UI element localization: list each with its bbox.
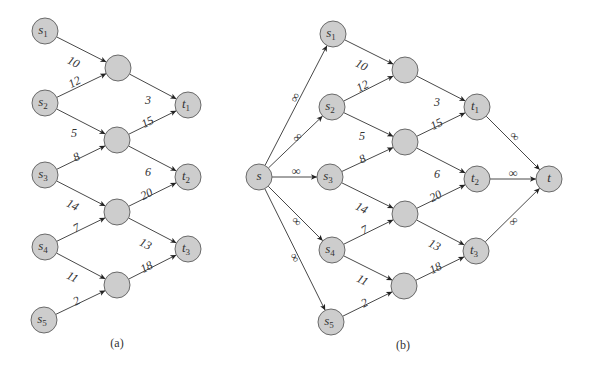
node-s5: s5 [31, 307, 57, 333]
edge-capacity-label: 12 [66, 73, 83, 91]
node-t3: t3 [463, 238, 489, 264]
node-subscript: 2 [330, 105, 335, 115]
edge-capacity-label: 11 [64, 268, 80, 286]
edge-s-s5 [265, 189, 325, 311]
node-subscript: 2 [475, 177, 480, 187]
node-circle [392, 201, 418, 227]
edge-s4-m3 [57, 218, 106, 242]
panel-b-caption: (b) [396, 338, 410, 352]
node-t1: t1 [175, 92, 201, 118]
node-m3 [392, 201, 418, 227]
node-circle [391, 273, 417, 299]
node-subscript: 3 [186, 247, 191, 257]
edge-s-s1 [265, 46, 327, 166]
edge-capacity-label: 7 [359, 222, 372, 238]
node-subscript: 3 [43, 173, 48, 183]
edge-capacity-label: ∞ [289, 129, 305, 145]
node-circle [104, 127, 130, 153]
node-t2: t2 [464, 166, 490, 192]
node-subscript: 3 [474, 249, 479, 259]
edge-capacity-label: 14 [353, 199, 370, 217]
edge-capacity-label: ∞ [289, 213, 305, 229]
edge-capacity-label: 3 [433, 95, 440, 109]
edge-capacity-label: 5 [71, 126, 77, 140]
node-t1: t1 [464, 94, 490, 120]
node-subscript: 2 [43, 101, 48, 111]
edge-capacity-label: 6 [145, 165, 151, 179]
node-s1: s1 [32, 18, 58, 44]
edge-m2-t2 [417, 148, 466, 173]
node-s5: s5 [318, 309, 344, 335]
node-subscript: 1 [43, 29, 48, 39]
node-t3: t3 [175, 236, 201, 262]
node-s4: s4 [32, 234, 58, 260]
edge-capacity-label: 12 [354, 77, 371, 95]
flow-network-figure: 1012581471123156201318 s1s2s3s4s5t1t2t3 … [0, 0, 594, 370]
edge-s4-m4 [56, 253, 105, 279]
edge-capacity-label: 7 [71, 220, 84, 236]
edge-m2-t2 [129, 146, 177, 171]
node-subscript: 1 [475, 105, 480, 115]
edge-s2-m2 [344, 113, 394, 137]
node-circle [104, 199, 130, 225]
node-label: t [547, 170, 551, 185]
node-subscript: 4 [330, 248, 335, 258]
edge-capacity-label: 2 [359, 295, 371, 310]
node-m1 [392, 57, 418, 83]
node-circle [105, 55, 131, 81]
edge-capacity-label: ∞ [287, 90, 304, 104]
node-s3: s3 [317, 164, 343, 190]
edge-m1-t1 [417, 76, 466, 101]
node-s2: s2 [32, 90, 58, 116]
edge-capacity-label: 11 [354, 271, 370, 289]
edge-s3-m3 [57, 181, 106, 206]
edge-capacity-label: 10 [65, 53, 82, 71]
node-s3: s3 [32, 162, 58, 188]
edge-capacity-label: 6 [434, 167, 440, 181]
node-circle [392, 129, 418, 155]
edge-capacity-label: 15 [428, 115, 445, 133]
edge-capacity-label: 14 [64, 196, 81, 214]
node-subscript: 1 [186, 103, 191, 113]
node-subscript: 5 [42, 318, 47, 328]
node-subscript: 2 [186, 175, 191, 185]
edge-capacity-label: 10 [353, 56, 370, 74]
node-s1: s1 [320, 21, 346, 47]
node-m1 [105, 55, 131, 81]
edge-s-s4 [268, 186, 323, 241]
node-s2: s2 [319, 94, 345, 120]
edge-capacity-label: 13 [137, 235, 154, 253]
edge-capacity-label: 5 [359, 129, 365, 143]
node-subscript: 4 [43, 245, 48, 255]
edge-m1-t1 [129, 74, 176, 99]
node-s4: s4 [319, 237, 345, 263]
node-s: s [246, 164, 272, 190]
panel-a-caption: (a) [110, 336, 123, 350]
node-circle [104, 272, 130, 298]
node-m2 [104, 127, 130, 153]
node-m2 [392, 129, 418, 155]
node-m4 [104, 272, 130, 298]
panel-a-nodes: s1s2s3s4s5t1t2t3 [31, 18, 201, 333]
node-t: t [536, 166, 562, 192]
node-m4 [391, 273, 417, 299]
edge-s3-m2 [342, 147, 393, 171]
edge-capacity-label: 3 [144, 93, 151, 107]
edge-capacity-label: ∞ [505, 213, 521, 229]
node-subscript: 1 [331, 32, 336, 42]
node-label: s [256, 168, 261, 183]
edge-s2-m2 [57, 109, 106, 134]
panel-b-graph: ∞∞∞∞∞1012581471123156201318∞∞∞ ss1s2s3s4… [246, 21, 562, 352]
edge-capacity-label: 13 [426, 236, 443, 254]
node-m3 [104, 199, 130, 225]
node-circle [392, 57, 418, 83]
edge-capacity-label: ∞ [507, 128, 523, 144]
node-t2: t2 [175, 164, 201, 190]
node-subscript: 3 [328, 175, 333, 185]
edge-capacity-label: ∞ [509, 166, 518, 180]
edge-capacity-label: ∞ [292, 164, 301, 178]
edge-capacity-label: ∞ [287, 250, 304, 264]
panel-a-graph: 1012581471123156201318 s1s2s3s4s5t1t2t3 … [31, 18, 201, 350]
node-subscript: 5 [329, 320, 334, 330]
edge-capacity-label: 18 [427, 259, 444, 277]
